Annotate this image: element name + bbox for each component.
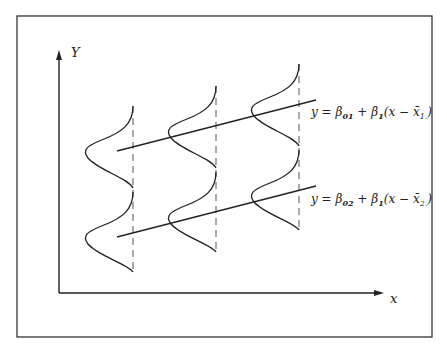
figure-border: [17, 16, 432, 337]
density-curve-1a: [85, 106, 133, 188]
x-axis: [59, 290, 384, 296]
y-axis-arrow-icon: [56, 50, 62, 60]
x-axis-label: x: [390, 291, 398, 306]
density-curve-2b: [168, 172, 216, 252]
density-curve-1b: [85, 192, 133, 272]
y-axis: [56, 50, 62, 293]
equation-label-group-2: y = β02 + β1(x − x̄2.): [310, 192, 432, 208]
density-curve-3b: [251, 150, 299, 230]
regression-line-group-1: [117, 100, 316, 151]
density-curves: [85, 64, 299, 272]
equation-label-group-1: y = β01 + β1(x − x̄1.): [310, 105, 432, 121]
density-curve-3a: [251, 64, 299, 146]
x-axis-arrow-icon: [374, 290, 384, 296]
y-axis-label: Y: [71, 45, 81, 60]
ancova-diagram: Y x y = β01 + β1(x − x̄1.) y = β02 + β1(…: [0, 0, 447, 355]
regression-line-group-2: [117, 186, 316, 237]
